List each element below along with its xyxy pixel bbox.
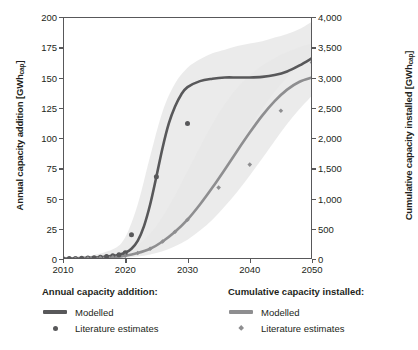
left-axis-title-subscript: cap (18, 64, 25, 75)
legend-item-annual-modelled-label: Modelled (75, 307, 114, 318)
legend-diamond-marker-icon (228, 326, 254, 330)
left-axis-title-suffix: ] (14, 61, 25, 64)
x-tick-mark (125, 259, 126, 263)
right-tick-mark (312, 138, 316, 139)
right-tick-mark (312, 108, 316, 109)
left-tick-label: 50 (46, 193, 57, 204)
legend-item-annual-literature-label: Literature estimates (75, 323, 158, 334)
x-tick-label: 2010 (52, 264, 73, 275)
left-tick-label: 175 (41, 42, 57, 53)
right-axis-title-subscript: cap (407, 54, 414, 65)
left-tick-label: 200 (41, 12, 57, 23)
right-tick-label: 3,000 (318, 72, 342, 83)
right-axis-title-suffix: ] (403, 51, 414, 54)
legend-line-swatch-annual-icon (42, 310, 68, 313)
left-tick-mark (59, 78, 63, 79)
left-tick-mark (59, 168, 63, 169)
right-tick-label: 500 (318, 223, 334, 234)
right-axis-title: Cumulative capacity installed [GWhcap] (403, 41, 414, 231)
left-axis-title: Annual capacity addition [GWhcap] (14, 56, 25, 216)
plot-border-left (63, 17, 64, 259)
left-tick-label: 150 (41, 72, 57, 83)
x-tick-label: 2040 (239, 264, 260, 275)
right-tick-label: 3,500 (318, 42, 342, 53)
right-tick-mark (312, 78, 316, 79)
x-tick-mark (312, 259, 313, 263)
legend-item-cumulative-modelled-label: Modelled (261, 307, 300, 318)
right-tick-label: 4,000 (318, 12, 342, 23)
plot-border-top (63, 17, 312, 18)
legend-item-cumulative-literature-label: Literature estimates (261, 323, 344, 334)
right-tick-mark (312, 47, 316, 48)
literature-estimate-marker (117, 252, 122, 257)
left-tick-mark (59, 47, 63, 48)
x-tick-label: 2030 (177, 264, 198, 275)
right-axis-title-text: Cumulative capacity installed [GWh (403, 64, 414, 220)
legend-group-cumulative-heading: Cumulative capacity installed: (228, 286, 364, 297)
legend-group-annual: Annual capacity addition: Modelled Liter… (42, 286, 158, 336)
legend-group-annual-heading: Annual capacity addition: (42, 286, 158, 297)
plot-area: 0255075100125150175200 05001,0001,5002,0… (63, 17, 312, 259)
legend-item-annual-modelled: Modelled (42, 304, 158, 320)
left-tick-label: 25 (46, 223, 57, 234)
left-tick-mark (59, 229, 63, 230)
right-tick-label: 1,500 (318, 163, 342, 174)
literature-estimate-marker (154, 174, 159, 179)
left-tick-label: 100 (41, 133, 57, 144)
legend-item-cumulative-literature: Literature estimates (228, 320, 364, 336)
literature-estimate-marker (129, 232, 134, 237)
x-tick-label: 2020 (115, 264, 136, 275)
right-tick-label: 2,000 (318, 133, 342, 144)
legend-circle-marker-icon (42, 326, 68, 331)
literature-estimate-marker (185, 121, 190, 126)
left-tick-label: 0 (52, 254, 57, 265)
chart-legend: Annual capacity addition: Modelled Liter… (0, 286, 418, 350)
left-axis-title-text: Annual capacity addition [GWh (14, 74, 25, 210)
left-tick-mark (59, 138, 63, 139)
left-tick-mark (59, 17, 63, 18)
left-tick-label: 75 (46, 163, 57, 174)
x-tick-mark (250, 259, 251, 263)
legend-group-cumulative: Cumulative capacity installed: Modelled … (228, 286, 364, 336)
legend-item-cumulative-modelled: Modelled (228, 304, 364, 320)
left-tick-mark (59, 199, 63, 200)
chart-canvas (63, 17, 312, 259)
x-tick-label: 2050 (301, 264, 322, 275)
x-tick-mark (63, 259, 64, 263)
right-tick-label: 2,500 (318, 102, 342, 113)
legend-item-annual-literature: Literature estimates (42, 320, 158, 336)
uncertainty-bands (88, 22, 312, 259)
right-tick-mark (312, 229, 316, 230)
left-tick-mark (59, 108, 63, 109)
legend-line-swatch-cumulative-icon (228, 310, 254, 313)
right-tick-mark (312, 199, 316, 200)
right-tick-label: 1,000 (318, 193, 342, 204)
right-tick-mark (312, 17, 316, 18)
chart-figure: Annual capacity addition [GWhcap] Cumula… (0, 0, 418, 350)
right-tick-label: 0 (318, 254, 323, 265)
left-tick-label: 125 (41, 102, 57, 113)
right-tick-mark (312, 168, 316, 169)
x-tick-mark (188, 259, 189, 263)
